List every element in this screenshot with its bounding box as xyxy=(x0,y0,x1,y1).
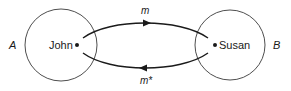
set-a-label: A xyxy=(8,39,16,51)
john-dot xyxy=(75,43,79,47)
communication-diagram: A John B Susan m m* xyxy=(0,0,291,91)
edge-m-label: m xyxy=(141,5,149,16)
set-a: A John xyxy=(8,9,97,81)
edge-m: m xyxy=(83,5,208,38)
susan-dot xyxy=(213,43,217,47)
set-b-label: B xyxy=(273,39,280,51)
set-b: B Susan xyxy=(195,10,280,80)
john-label: John xyxy=(49,39,73,51)
edge-m-star: m* xyxy=(83,53,208,86)
susan-label: Susan xyxy=(219,39,250,51)
arrow-left-icon xyxy=(139,65,147,72)
edge-m-star-label: m* xyxy=(140,75,153,86)
arrow-right-icon xyxy=(143,20,151,27)
